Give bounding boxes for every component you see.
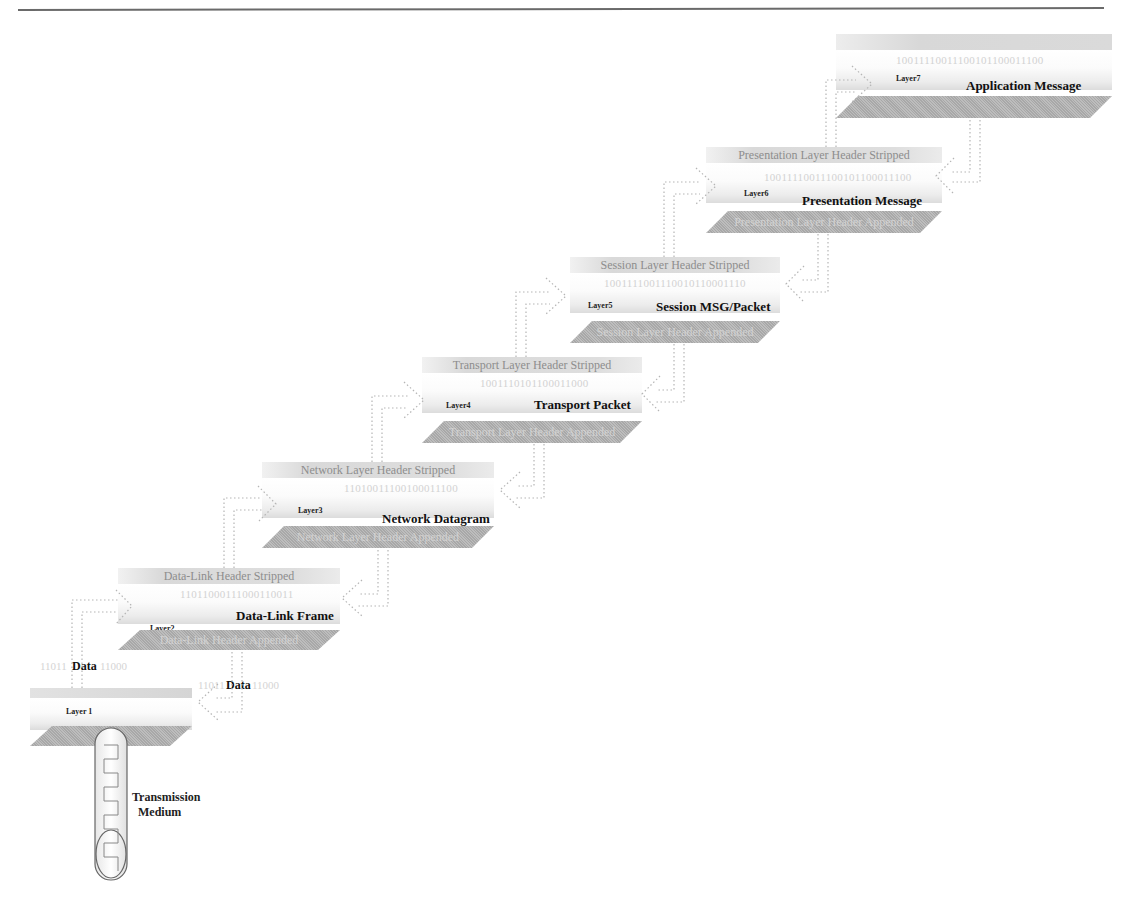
arrow-down-7-to-6: [936, 116, 980, 194]
arrow-down-5-to-4: [642, 340, 684, 412]
arrow-up-1-to-2: [72, 590, 132, 688]
arrow-down-3-to-2: [342, 546, 388, 616]
arrow-up-2-to-3: [224, 486, 276, 568]
transmission-medium-icon: [95, 728, 127, 880]
arrow-up-5-to-6: [664, 168, 716, 257]
arrow-down-2-to-1: [198, 648, 242, 720]
arrow-down-6-to-5: [786, 230, 828, 302]
arrow-down-4-to-3: [500, 440, 544, 508]
diagram-overlay: [0, 0, 1122, 913]
arrow-up-6-to-7: [826, 66, 872, 147]
arrow-up-4-to-5: [516, 278, 566, 357]
arrow-up-3-to-4: [372, 382, 424, 462]
